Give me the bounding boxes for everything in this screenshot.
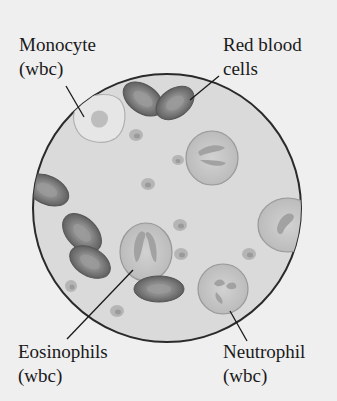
platelet [242, 248, 256, 260]
monocyte-label-line2: (wbc) [19, 57, 96, 81]
monocyte-label-line1: Monocyte [19, 33, 96, 57]
platelet [174, 248, 188, 260]
red-blood-cell [134, 276, 184, 302]
rbc-label-line1: Red blood [223, 33, 302, 57]
platelet [141, 178, 155, 190]
eosinophil-cell [120, 223, 172, 281]
neutrophil-cell [186, 131, 238, 185]
neutrophil-label-line2: (wbc) [223, 364, 305, 388]
rbc-label-line2: cells [223, 57, 302, 81]
neutrophil-label-line1: Neutrophil [223, 340, 305, 364]
neutrophil-label: Neutrophil (wbc) [223, 340, 305, 388]
neutrophil-cell [258, 198, 318, 252]
platelet [129, 129, 143, 141]
monocyte-label: Monocyte (wbc) [19, 33, 96, 81]
neutrophil-cell [198, 264, 248, 314]
platelet [65, 280, 77, 292]
platelet [172, 155, 184, 165]
platelet [110, 305, 124, 317]
platelet [173, 219, 187, 231]
eosinophils-label: Eosinophils (wbc) [18, 340, 108, 388]
eosinophils-label-line1: Eosinophils [18, 340, 108, 364]
monocyte-cell [74, 95, 125, 143]
red-blood-cells-label: Red blood cells [223, 33, 302, 81]
eosinophils-label-line2: (wbc) [18, 364, 108, 388]
